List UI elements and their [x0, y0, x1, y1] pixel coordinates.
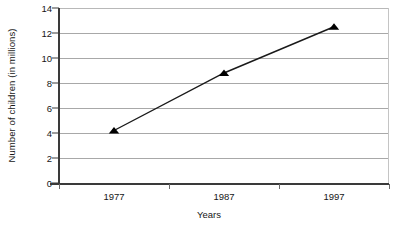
x-tick-label: 1977: [103, 191, 124, 202]
y-tick-mark: [52, 33, 59, 34]
data-point-marker: [219, 70, 229, 76]
x-tick-label: 1997: [323, 191, 344, 202]
y-tick-mark: [52, 158, 59, 159]
x-axis-title: Years: [0, 209, 418, 220]
x-tick-mark: [279, 184, 280, 189]
y-tick-mark: [52, 108, 59, 109]
figure-caption: [4, 226, 414, 233]
chart-figure: Number of children (in millions) 0246810…: [0, 0, 418, 233]
series-line: [114, 27, 334, 131]
y-tick-mark: [52, 58, 59, 59]
x-tick-label: 1987: [213, 191, 234, 202]
y-tick-mark: [52, 83, 59, 84]
y-axis-title: Number of children (in millions): [0, 0, 22, 190]
data-point-marker: [329, 23, 339, 29]
x-tick-mark: [389, 184, 390, 189]
y-tick-mark: [52, 8, 59, 9]
x-axis-line: [50, 183, 389, 185]
y-tick-label: 12: [41, 28, 52, 39]
x-tick-mark: [169, 184, 170, 189]
y-tick-label: 14: [41, 3, 52, 14]
y-tick-label: 10: [41, 53, 52, 64]
y-tick-mark: [52, 133, 59, 134]
y-axis-title-text: Number of children (in millions): [6, 28, 17, 162]
x-tick-mark: [59, 184, 60, 189]
data-series-layer: [59, 8, 389, 183]
y-tick-mark: [52, 183, 59, 184]
